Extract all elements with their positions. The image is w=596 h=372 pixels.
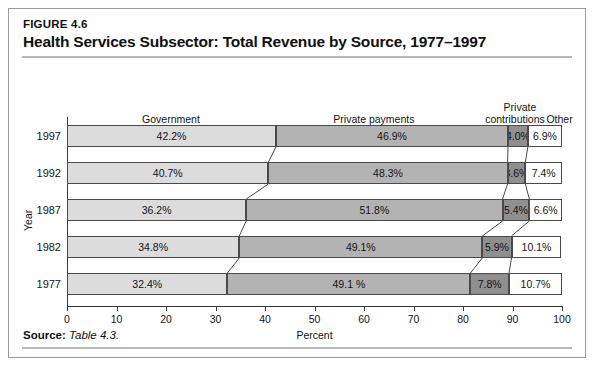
bar-segment: 3.6% [508,162,526,184]
x-axis-tick [562,306,563,311]
column-header: Private payments [314,113,434,125]
y-axis-row-label: 1982 [25,241,61,253]
column-header: Other [500,113,586,125]
source-note: Source: Table 4.3. [23,329,119,341]
bar-segment: 32.4% [67,273,227,295]
stacked-bar-chart: GovernmentPrivate paymentsPrivatecontrib… [9,9,586,358]
bar-segment: 48.3% [268,162,507,184]
x-axis-tick-label: 50 [300,313,330,325]
bar-segment: 7.8% [470,273,509,295]
y-axis-row-label: 1992 [25,167,61,179]
x-axis-tick [216,306,217,311]
bar-segment: 10.7% [509,273,562,295]
bar-segment: 34.8% [67,236,239,258]
bar-segment: 4.0% [508,125,528,147]
bar-segment: 46.9% [276,125,508,147]
x-axis-tick-label: 60 [349,313,379,325]
x-axis-tick-label: 70 [399,313,429,325]
x-axis-tick [513,306,514,311]
column-header: Government [111,113,231,125]
bar-segment: 6.9% [528,125,562,147]
x-axis-tick [364,306,365,311]
x-axis-tick [315,306,316,311]
x-axis-tick-label: 90 [498,313,528,325]
y-axis-row-label: 1997 [25,130,61,142]
x-axis-tick [67,306,68,311]
x-axis-title: Percent [255,329,375,341]
x-axis-tick-label: 10 [102,313,132,325]
bar-segment: 6.6% [529,199,562,221]
bar-segment: 5.9% [482,236,511,258]
x-axis-tick-label: 80 [448,313,478,325]
footer-divider [22,347,572,349]
x-axis-tick [463,306,464,311]
x-axis-tick [166,306,167,311]
bar-segment: 5.4% [503,199,530,221]
x-axis-tick [265,306,266,311]
source-label: Source: [23,329,66,341]
x-axis-tick [117,306,118,311]
bar-segment: 51.8% [246,199,502,221]
x-axis-tick-label: 0 [52,313,82,325]
figure-panel: FIGURE 4.6 Health Services Subsector: To… [8,8,586,358]
x-axis-tick-label: 20 [151,313,181,325]
bar-segment: 40.7% [67,162,268,184]
x-axis-tick [414,306,415,311]
source-value: Table 4.3. [69,329,119,341]
bar-segment: 10.1% [512,236,562,258]
column-header: Private [460,101,580,113]
bar-segment: 42.2% [67,125,276,147]
y-axis-row-label: 1977 [25,278,61,290]
bar-segment: 36.2% [67,199,246,221]
bar-segment: 49.1% [239,236,482,258]
x-axis-tick-label: 30 [201,313,231,325]
x-axis-tick-label: 100 [547,313,577,325]
x-axis-tick-label: 40 [250,313,280,325]
bar-segment: 7.4% [525,162,562,184]
y-axis-row-label: 1987 [25,204,61,216]
bar-segment: 49.1 % [227,273,470,295]
